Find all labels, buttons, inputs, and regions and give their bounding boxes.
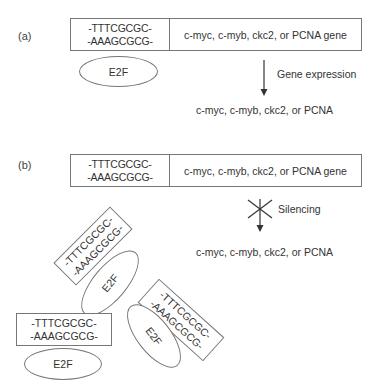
panel-b-product: c-myc, c-myb, ckc2, or PCNA	[196, 246, 333, 258]
silencing-label: Silencing	[278, 203, 321, 215]
sequestered-sequence-3: -TTTCGCGC- -AAAGCGCG-	[16, 313, 112, 346]
seq-top: -TTTCGCGC-	[31, 317, 96, 330]
seq-bottom: -AAAGCGCG-	[30, 330, 98, 343]
e2f-protein-3: E2F	[24, 348, 102, 380]
